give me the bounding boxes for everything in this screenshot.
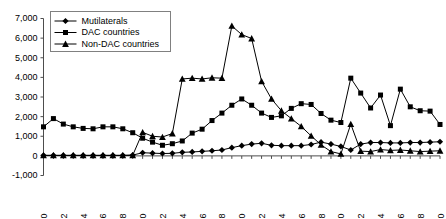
data-point-marker	[258, 78, 265, 84]
x-tick-label: 1972	[158, 214, 168, 219]
data-point-marker	[299, 101, 304, 106]
data-point-marker	[437, 139, 443, 145]
data-point-marker	[258, 140, 264, 146]
data-point-marker	[63, 30, 68, 35]
data-point-marker	[160, 143, 165, 148]
data-point-marker	[438, 122, 443, 127]
data-point-marker	[61, 122, 66, 127]
data-point-marker	[328, 148, 335, 154]
data-point-marker	[229, 103, 234, 108]
data-point-marker	[228, 23, 235, 29]
chart-legend: MutilateralsDAC countriesNon-DAC countri…	[51, 12, 171, 52]
data-point-marker	[180, 138, 185, 143]
x-tick-label: 1986	[297, 214, 307, 219]
data-point-marker	[190, 131, 195, 136]
x-axis-group: 1960196219641966196819701972197419761978…	[39, 156, 446, 218]
data-point-marker	[169, 130, 176, 136]
data-point-marker	[348, 76, 353, 81]
data-point-marker	[289, 106, 294, 111]
data-point-marker	[407, 139, 413, 145]
data-point-marker	[91, 126, 96, 131]
data-point-marker	[259, 111, 264, 116]
x-tick-label: 1990	[336, 214, 346, 219]
data-point-marker	[288, 143, 294, 149]
y-axis-group: 7,0006,0005,0004,0003,0002,0001,0000-1,0…	[12, 13, 44, 180]
data-point-marker	[278, 143, 284, 149]
y-tick-label: 4,000	[15, 72, 38, 82]
data-point-marker	[150, 140, 155, 145]
y-tick-group: 7,0006,0005,0004,0003,0002,0001,0000-1,0…	[12, 13, 44, 180]
data-point-marker	[269, 115, 274, 120]
data-point-marker	[179, 149, 185, 155]
series-dac-countries	[41, 76, 443, 148]
data-point-marker	[308, 141, 314, 147]
y-tick-label: 5,000	[15, 53, 38, 63]
data-point-marker	[140, 150, 146, 156]
data-point-marker	[248, 35, 255, 41]
data-point-marker	[139, 129, 146, 135]
y-tick-label: 1,000	[15, 131, 38, 141]
x-tick-label: 1998	[416, 214, 426, 219]
legend-label: DAC countries	[82, 27, 141, 37]
data-point-marker	[209, 148, 215, 154]
y-tick-label: -1,000	[12, 170, 38, 180]
x-tick-label: 1970	[138, 214, 148, 219]
data-point-marker	[219, 147, 225, 153]
data-point-marker	[418, 108, 423, 113]
data-point-marker	[249, 103, 254, 108]
data-point-marker	[328, 118, 333, 123]
data-point-marker	[210, 118, 215, 123]
data-point-marker	[229, 145, 235, 151]
data-point-marker	[268, 96, 275, 102]
x-tick-label: 1982	[257, 214, 267, 219]
data-point-marker	[368, 105, 373, 110]
x-tick-group: 1960196219641966196819701972197419761978…	[39, 156, 446, 218]
data-point-marker	[41, 124, 46, 129]
data-point-marker	[348, 147, 354, 153]
data-point-marker	[239, 96, 244, 101]
data-point-marker	[338, 120, 343, 125]
data-point-marker	[368, 139, 374, 145]
data-point-marker	[417, 139, 423, 145]
data-point-marker	[397, 140, 403, 146]
x-tick-label: 1996	[396, 214, 406, 219]
data-point-marker	[81, 126, 86, 131]
x-tick-label: 1968	[118, 214, 128, 219]
data-point-marker	[388, 123, 393, 128]
data-point-marker	[377, 139, 383, 145]
data-point-marker	[408, 104, 413, 109]
data-point-marker	[71, 124, 76, 129]
data-point-marker	[249, 141, 255, 147]
data-point-marker	[309, 102, 314, 107]
data-point-marker	[347, 121, 354, 127]
data-point-marker	[51, 116, 56, 121]
data-point-marker	[219, 111, 224, 116]
x-tick-label: 1984	[277, 214, 287, 219]
chart-container: 7,0006,0005,0004,0003,0002,0001,0000-1,0…	[0, 0, 446, 218]
legend-label: Mutilaterals	[82, 16, 129, 26]
x-tick-label: 1976	[198, 214, 208, 219]
data-point-marker	[398, 87, 403, 92]
data-point-marker	[378, 93, 383, 98]
data-point-marker	[387, 140, 393, 146]
x-tick-label: 1978	[217, 214, 227, 219]
x-tick-label: 1966	[98, 214, 108, 219]
y-tick-label: 7,000	[15, 13, 38, 23]
x-tick-label: 1964	[79, 214, 89, 219]
data-point-marker	[170, 141, 175, 146]
data-point-marker	[268, 142, 274, 148]
data-point-marker	[199, 148, 205, 154]
x-tick-label: 1980	[237, 214, 247, 219]
legend-label: Non-DAC countries	[82, 39, 160, 49]
x-tick-label: 1988	[317, 214, 327, 219]
y-tick-label: 2,000	[15, 112, 38, 122]
x-tick-label: 1962	[59, 214, 69, 219]
y-tick-label: 3,000	[15, 92, 38, 102]
data-point-marker	[427, 139, 433, 145]
data-point-marker	[428, 109, 433, 114]
data-point-marker	[110, 124, 115, 129]
x-tick-label: 1994	[376, 214, 386, 219]
x-tick-label: 1992	[356, 214, 366, 219]
data-point-marker	[319, 111, 324, 116]
data-point-marker	[298, 143, 304, 149]
